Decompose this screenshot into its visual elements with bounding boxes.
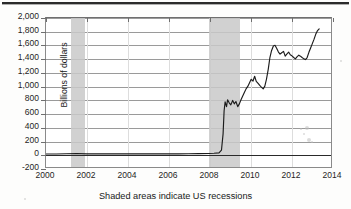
- chart-caption: Shaded areas indicate US recessions: [0, 191, 351, 201]
- x-axis-tick-label: 2000: [25, 170, 65, 180]
- x-axis-tick-mark: [128, 18, 129, 22]
- y-axis-tick-label: 0: [0, 149, 39, 158]
- y-axis-tick-label: 600: [0, 108, 39, 117]
- y-axis-tick-label: 800: [0, 94, 39, 103]
- page-top-rule-shadow: [2, 4, 349, 5]
- x-axis-tick-mark: [251, 18, 252, 22]
- scan-speck: [300, 128, 302, 130]
- x-axis-tick-label: 2014: [312, 170, 351, 180]
- y-axis-tick-label: 200: [0, 136, 39, 145]
- x-axis-tick-mark: [169, 18, 170, 22]
- scan-speck: [24, 198, 26, 200]
- x-axis-tick-mark: [87, 18, 88, 22]
- x-axis-tick-label: 2008: [189, 170, 229, 180]
- y-axis-tick-mark: [41, 73, 46, 74]
- scan-speck: [311, 141, 313, 143]
- x-axis-tick-label: 2012: [271, 170, 311, 180]
- x-axis-tick-label: 2010: [230, 170, 270, 180]
- scanned-page: Billions of dollars Shaded areas indicat…: [0, 0, 351, 209]
- chart-plot-area: Billions of dollars: [45, 17, 332, 168]
- y-axis-tick-label: 1,200: [0, 67, 39, 76]
- zero-baseline: [46, 155, 331, 156]
- scan-speck: [305, 126, 309, 130]
- scan-speck: [303, 133, 305, 135]
- y-axis-tick-mark: [41, 155, 46, 156]
- x-axis-tick-mark: [46, 18, 47, 22]
- x-axis-tick-label: 2002: [66, 170, 106, 180]
- y-axis-tick-label: 2,000: [0, 12, 39, 21]
- y-axis-tick-mark: [41, 45, 46, 46]
- x-axis-tick-label: 2006: [148, 170, 188, 180]
- series-polyline: [46, 29, 319, 154]
- x-axis-tick-mark: [292, 18, 293, 22]
- y-axis-tick-mark: [41, 142, 46, 143]
- y-axis-tick-mark: [41, 87, 46, 88]
- scan-speck: [340, 60, 342, 62]
- x-axis-tick-mark: [210, 18, 211, 22]
- y-axis-tick-label: 1,000: [0, 81, 39, 90]
- y-axis-tick-label: 1,800: [0, 26, 39, 35]
- y-axis-tick-mark: [41, 100, 46, 101]
- y-axis-tick-label: 1,400: [0, 53, 39, 62]
- y-axis-tick-label: 400: [0, 122, 39, 131]
- y-axis-title: Billions of dollars: [59, 5, 69, 145]
- y-axis-tick-mark: [41, 32, 46, 33]
- y-axis-tick-mark: [41, 128, 46, 129]
- y-axis-tick-mark: [41, 114, 46, 115]
- y-axis-tick-label: 1,600: [0, 39, 39, 48]
- plot-inner: [46, 18, 331, 167]
- y-axis-tick-mark: [41, 59, 46, 60]
- x-axis-tick-mark: [333, 18, 334, 22]
- data-series-line: [46, 18, 331, 167]
- x-axis-tick-label: 2004: [107, 170, 147, 180]
